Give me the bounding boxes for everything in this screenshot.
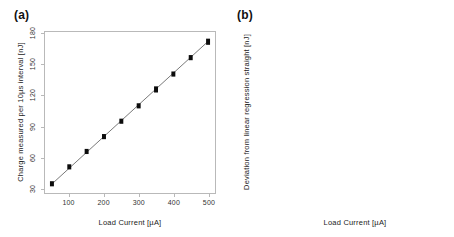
panel-a-y-ticklabel: 90: [29, 122, 36, 130]
panel-a-y-ticklabel: 180: [29, 27, 36, 39]
panel-a: (a) 306090120150180 100200300400500 Load…: [0, 0, 227, 237]
panel-a-x-tickmark: [174, 194, 175, 197]
panel-a-x-tickmark: [104, 194, 105, 197]
panel-a-plot-area: [44, 31, 216, 194]
panel-a-y-tickmark: [41, 33, 44, 34]
panel-b-x-axis-title: Load Current [µA]: [324, 218, 387, 227]
panel-a-x-tickmark: [139, 194, 140, 197]
scatter-plot-canvas: [45, 32, 215, 193]
panel-a-y-ticklabel: 120: [29, 89, 36, 101]
panel-a-label: (a): [14, 8, 29, 22]
panel-a-x-ticklabel: 400: [168, 199, 180, 206]
panel-a-x-tickmark: [209, 194, 210, 197]
panel-a-x-ticklabel: 500: [203, 199, 215, 206]
panel-b: (b) -3.0-1.501.53.0 50100150200250300350…: [227, 0, 454, 237]
panel-a-y-tickmark: [41, 95, 44, 96]
panel-b-label: (b): [237, 8, 253, 22]
panel-a-y-ticklabel: 60: [29, 154, 36, 162]
figure-container: (a) 306090120150180 100200300400500 Load…: [0, 0, 454, 237]
panel-a-x-ticklabel: 100: [62, 199, 74, 206]
panel-a-y-axis-title: Charge measured per 10µs interval [nJ]: [16, 42, 25, 182]
panel-a-y-tickmark: [41, 158, 44, 159]
panel-a-x-axis-title: Load Current [µA]: [99, 218, 162, 227]
panel-b-y-axis-title: Deviation from linear regression straigh…: [242, 34, 251, 190]
panel-a-y-ticklabel: 30: [29, 185, 36, 193]
panel-a-x-ticklabel: 200: [98, 199, 110, 206]
panel-a-y-tickmark: [41, 127, 44, 128]
panel-a-y-ticklabel: 150: [29, 58, 36, 70]
panel-a-x-ticklabel: 300: [133, 199, 145, 206]
panel-a-x-tickmark: [69, 194, 70, 197]
panel-a-y-tickmark: [41, 189, 44, 190]
panel-a-y-tickmark: [41, 64, 44, 65]
